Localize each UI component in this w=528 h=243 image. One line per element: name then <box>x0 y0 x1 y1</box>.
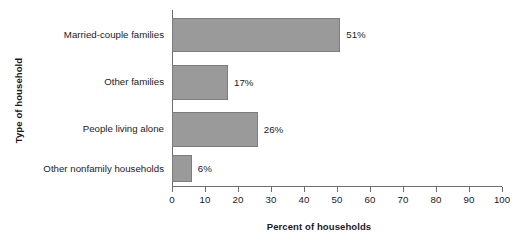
plot-area: 51% 17% 26% 6% 0 10 20 30 40 50 60 70 80… <box>172 10 502 187</box>
bar-chart: Type of household Married-couple familie… <box>0 0 528 243</box>
bar-value-1: 17% <box>234 77 253 88</box>
category-label-3: Other nonfamily households <box>43 163 164 174</box>
x-tick-label-9: 90 <box>454 194 484 205</box>
x-axis-title: Percent of households <box>0 221 528 232</box>
category-label-1: Other families <box>104 76 164 87</box>
x-tick-8 <box>436 187 437 192</box>
x-tick-label-10: 100 <box>487 194 517 205</box>
bar-0 <box>172 18 340 52</box>
x-tick-label-2: 20 <box>223 194 253 205</box>
x-tick-label-8: 80 <box>421 194 451 205</box>
x-tick-label-0: 0 <box>157 194 187 205</box>
x-tick-2 <box>238 187 239 192</box>
y-axis-title: Type of household <box>13 41 24 161</box>
x-tick-9 <box>469 187 470 192</box>
x-tick-4 <box>304 187 305 192</box>
x-tick-label-1: 10 <box>190 194 220 205</box>
category-label-0: Married-couple families <box>64 29 164 40</box>
x-tick-1 <box>205 187 206 192</box>
bar-3 <box>172 155 192 182</box>
category-label-2: People living alone <box>83 123 164 134</box>
x-tick-3 <box>271 187 272 192</box>
x-tick-label-3: 30 <box>256 194 286 205</box>
x-tick-label-6: 60 <box>355 194 385 205</box>
x-tick-label-4: 40 <box>289 194 319 205</box>
bar-value-0: 51% <box>346 29 365 40</box>
x-tick-0 <box>172 187 173 192</box>
x-tick-label-7: 70 <box>388 194 418 205</box>
bar-1 <box>172 65 228 100</box>
bar-value-3: 6% <box>198 163 212 174</box>
x-tick-6 <box>370 187 371 192</box>
x-tick-7 <box>403 187 404 192</box>
x-tick-10 <box>502 187 503 192</box>
x-tick-label-5: 50 <box>322 194 352 205</box>
bar-value-2: 26% <box>264 124 283 135</box>
x-tick-5 <box>337 187 338 192</box>
bar-2 <box>172 112 258 147</box>
